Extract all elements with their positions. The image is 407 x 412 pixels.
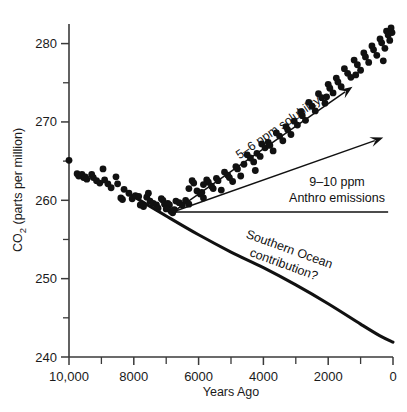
y-tick-label: 270 <box>35 114 57 129</box>
data-point <box>163 206 170 213</box>
data-point <box>365 59 372 66</box>
data-point <box>140 203 147 210</box>
trend-curve-group <box>132 196 393 343</box>
anthro-emissions-label-line2: Anthro emissions <box>289 191 385 205</box>
data-point <box>66 157 73 164</box>
y-axis-ticks <box>61 44 69 357</box>
data-point <box>279 137 286 144</box>
data-point <box>237 173 244 180</box>
data-point <box>323 93 330 100</box>
data-point <box>382 45 389 52</box>
data-point <box>190 180 197 187</box>
data-point <box>270 148 277 155</box>
x-tick-label: 2000 <box>314 369 343 384</box>
x-tick-label: 8000 <box>119 369 148 384</box>
data-point <box>229 178 236 185</box>
y-tick-label: 250 <box>35 271 57 286</box>
data-point <box>100 166 107 173</box>
x-tick-label: 4000 <box>249 369 278 384</box>
data-point <box>373 52 380 59</box>
data-point <box>155 205 162 212</box>
data-point <box>250 159 257 166</box>
anthro-emissions-label-line1: 9–10 ppm <box>309 175 365 189</box>
data-point <box>200 181 207 188</box>
data-point <box>108 184 115 191</box>
southern-ocean-label-group: Southern Oceancontribution? <box>239 227 335 286</box>
x-axis-tick-labels: 10,00080006000400020000 <box>49 369 397 384</box>
data-point <box>386 37 393 44</box>
data-point <box>389 29 396 36</box>
data-point <box>185 185 192 192</box>
chart-canvas: 280270260250240 10,00080006000400020000 … <box>0 0 407 412</box>
y-tick-label: 240 <box>35 350 57 365</box>
data-point <box>330 90 337 97</box>
x-tick-label: 6000 <box>184 369 213 384</box>
x-tick-label: 10,000 <box>49 369 89 384</box>
data-point <box>218 187 225 194</box>
data-point <box>135 193 142 200</box>
data-point <box>380 57 387 64</box>
data-point <box>114 180 121 187</box>
data-point <box>257 153 264 160</box>
data-point <box>252 167 259 174</box>
y-axis-title: CO2 (parts per million) <box>11 128 28 252</box>
y-axis-tick-labels: 280270260250240 <box>35 36 57 364</box>
southern-ocean-curve <box>132 196 393 343</box>
solubility-arrow-label: 5–6 ppm solubility <box>233 93 324 162</box>
co2-record-figure: 280270260250240 10,00080006000400020000 … <box>0 0 407 412</box>
y-tick-label: 280 <box>35 36 57 51</box>
x-tick-label: 0 <box>389 369 396 384</box>
data-point <box>119 196 126 203</box>
data-point <box>145 190 152 197</box>
data-point <box>113 173 120 180</box>
data-point <box>352 72 359 79</box>
y-tick-label: 260 <box>35 193 57 208</box>
x-axis-title: Years Ago <box>203 385 260 399</box>
x-axis-ticks <box>69 357 393 365</box>
